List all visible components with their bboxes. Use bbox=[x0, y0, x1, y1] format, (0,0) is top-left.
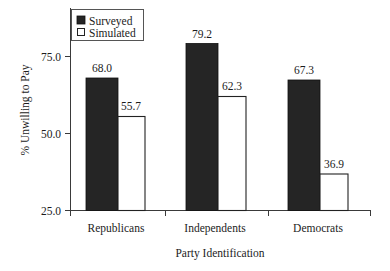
y-tick-label-25: 25.0 bbox=[41, 205, 61, 217]
bar-surveyed-independents bbox=[186, 44, 218, 211]
bar-chart-figure: 75.0 50.0 25.0 % Unwilling to Pay 68.0 5… bbox=[0, 0, 390, 271]
chart-legend: Surveyed Simulated bbox=[72, 10, 144, 41]
value-label-surveyed-independents: 79.2 bbox=[192, 28, 212, 40]
x-axis-title: Party Identification bbox=[175, 247, 264, 260]
value-label-simulated-independents: 62.3 bbox=[222, 80, 242, 92]
y-tick-label-75: 75.0 bbox=[41, 51, 61, 63]
y-axis-ticks: 75.0 50.0 25.0 bbox=[41, 51, 71, 217]
bar-simulated-independents bbox=[218, 97, 246, 211]
value-label-simulated-republicans: 55.7 bbox=[121, 100, 141, 112]
x-axis-category-labels: Republicans Independents Democrats bbox=[88, 222, 344, 235]
bar-group-independents: 79.2 62.3 bbox=[186, 28, 246, 211]
bar-group-republicans: 68.0 55.7 bbox=[86, 62, 145, 211]
chart-canvas: 75.0 50.0 25.0 % Unwilling to Pay 68.0 5… bbox=[0, 0, 390, 271]
bar-surveyed-democrats bbox=[288, 80, 320, 211]
legend-label-simulated: Simulated bbox=[89, 27, 136, 39]
y-tick-label-50: 50.0 bbox=[41, 128, 61, 140]
category-label-democrats: Democrats bbox=[293, 222, 343, 234]
bar-simulated-republicans bbox=[118, 117, 145, 211]
bar-simulated-democrats bbox=[320, 174, 348, 211]
x-axis-ticks bbox=[71, 211, 371, 217]
bar-surveyed-republicans bbox=[86, 78, 118, 211]
value-label-surveyed-republicans: 68.0 bbox=[92, 62, 112, 74]
filled-square-icon bbox=[77, 16, 85, 24]
value-label-surveyed-democrats: 67.3 bbox=[294, 64, 314, 76]
category-label-republicans: Republicans bbox=[88, 222, 145, 235]
category-label-independents: Independents bbox=[184, 222, 246, 235]
bar-group-democrats: 67.3 36.9 bbox=[288, 64, 348, 211]
y-axis-title: % Unwilling to Pay bbox=[19, 64, 32, 155]
value-label-simulated-democrats: 36.9 bbox=[324, 158, 344, 170]
empty-square-icon bbox=[78, 29, 85, 36]
